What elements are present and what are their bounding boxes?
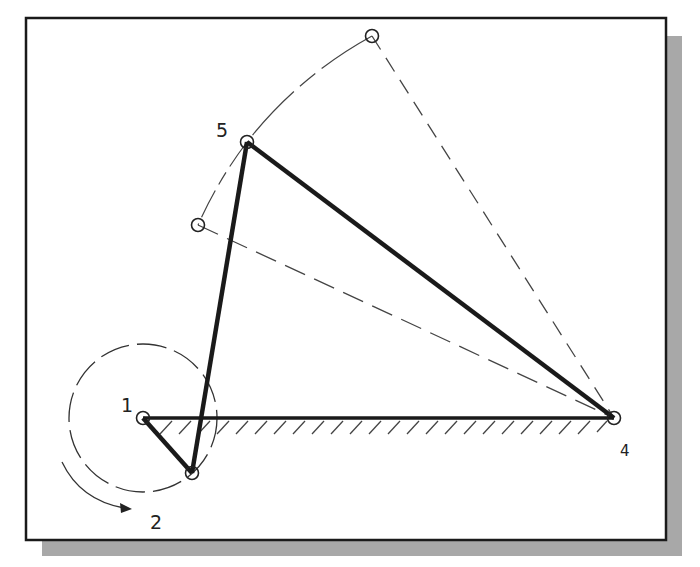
label-joint-5: 5 [216, 119, 228, 141]
label-joint-2: 2 [150, 511, 162, 533]
frame [26, 18, 666, 540]
label-joint-1: 1 [121, 394, 133, 416]
label-joint-4: 4 [620, 442, 630, 460]
linkage-diagram: 1 2 4 5 [0, 0, 700, 567]
